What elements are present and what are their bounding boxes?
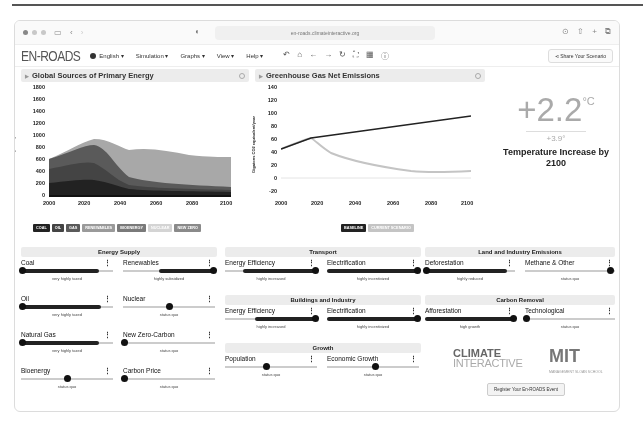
share-scenario-button[interactable]: ⋖ Share Your Scenario (548, 49, 613, 63)
share-icon[interactable]: ⇧ (577, 27, 584, 37)
step-forward-icon[interactable]: → (324, 50, 332, 61)
legend-gas[interactable]: GAS (66, 224, 80, 232)
menu-view[interactable]: View ▾ (217, 52, 235, 59)
slider-handle[interactable] (210, 267, 217, 274)
slider-handle[interactable] (19, 303, 26, 310)
slider-handle[interactable] (64, 375, 71, 382)
menu-graphs[interactable]: Graphs ▾ (180, 52, 204, 59)
address-bar[interactable]: en-roads.climateinteractive.org (215, 26, 435, 40)
slider-handle[interactable] (510, 315, 517, 322)
more-options-icon[interactable]: ⋮ (410, 259, 417, 267)
menu-help[interactable]: Help ▾ (246, 52, 263, 59)
forward-icon[interactable]: › (81, 28, 84, 37)
slider-handle[interactable] (19, 339, 26, 346)
close-window-button[interactable] (23, 30, 28, 35)
reset-icon[interactable]: ↻ (339, 50, 346, 61)
legend-new-zero[interactable]: NEW ZERO (174, 224, 200, 232)
slider-handle[interactable] (414, 315, 421, 322)
undo-icon[interactable]: ↶ (283, 50, 290, 61)
menu-language[interactable]: English ▾ (90, 52, 123, 59)
more-options-icon[interactable]: ⋮ (206, 331, 213, 339)
fullscreen-icon[interactable]: ⛶ (353, 50, 359, 61)
legend-coal[interactable]: COAL (33, 224, 50, 232)
tabs-overview-icon[interactable]: ⧉ (605, 27, 611, 37)
slider-handle[interactable] (121, 339, 128, 346)
slider-technological[interactable]: Technological⋮ status quo (525, 307, 615, 337)
slider-afforestation[interactable]: Afforestation⋮ high growth (425, 307, 515, 337)
home-icon[interactable]: ⌂ (297, 50, 302, 61)
slider-handle[interactable] (414, 267, 421, 274)
step-back-icon[interactable]: ← (309, 50, 317, 61)
slider-buildings-electrification[interactable]: Electrification⋮ highly incentivized (327, 307, 419, 337)
graph-title-bar[interactable]: ▶ Global Sources of Primary Energy (21, 69, 249, 82)
table-icon[interactable]: ▦ (366, 50, 374, 61)
legend-bioenergy[interactable]: BIOENERGY (117, 224, 146, 232)
climate-interactive-logo[interactable]: CLIMATE INTERACTIVE (453, 348, 522, 368)
slider-handle[interactable] (312, 315, 319, 322)
more-options-icon[interactable]: ⋮ (506, 307, 513, 315)
info-icon[interactable]: ⓘ (381, 50, 389, 61)
slider-renewables[interactable]: Renewables⋮ highly subsidized (123, 259, 215, 289)
slider-handle[interactable] (166, 303, 173, 310)
slider-population[interactable]: Population⋮ status quo (225, 355, 317, 385)
slider-transport-electrification[interactable]: Electrification⋮ highly incentivized (327, 259, 419, 289)
mit-sloan-logo[interactable]: MIT MANAGEMENT SLOAN SCHOOL (549, 348, 603, 380)
y-tick: 1000 (27, 132, 45, 138)
register-event-button[interactable]: Register Your En-ROADS Event (487, 383, 565, 396)
slider-handle[interactable] (121, 375, 128, 382)
more-options-icon[interactable]: ⋮ (104, 367, 111, 375)
minimize-window-button[interactable] (32, 30, 37, 35)
slider-transport-efficiency[interactable]: Energy Efficiency⋮ highly increased (225, 259, 317, 289)
more-options-icon[interactable]: ⋮ (606, 307, 613, 315)
more-options-icon[interactable]: ⋮ (206, 367, 213, 375)
slider-carbon-price[interactable]: Carbon Price⋮ status quo (123, 367, 215, 397)
slider-economic-growth[interactable]: Economic Growth⋮ status quo (327, 355, 419, 385)
graph-title: Greenhouse Gas Net Emissions (266, 71, 380, 80)
slider-handle[interactable] (607, 267, 614, 274)
slider-handle[interactable] (19, 267, 26, 274)
legend-current-scenario[interactable]: CURRENT SCENARIO (368, 224, 414, 232)
more-options-icon[interactable]: ⋮ (206, 295, 213, 303)
slider-handle[interactable] (523, 315, 530, 322)
more-options-icon[interactable]: ⋮ (104, 331, 111, 339)
slider-handle[interactable] (423, 267, 430, 274)
slider-new-zero-carbon[interactable]: New Zero-Carbon⋮ status quo (123, 331, 215, 361)
more-options-icon[interactable]: ⋮ (308, 259, 315, 267)
maximize-window-button[interactable] (41, 30, 46, 35)
graph-settings-icon[interactable] (475, 73, 481, 79)
more-options-icon[interactable]: ⋮ (410, 307, 417, 315)
slider-handle[interactable] (372, 363, 379, 370)
more-options-icon[interactable]: ⋮ (606, 259, 613, 267)
slider-natural-gas[interactable]: Natural Gas⋮ very highly taxed (21, 331, 113, 361)
y-tick: 20 (259, 162, 277, 168)
slider-handle[interactable] (312, 267, 319, 274)
more-options-icon[interactable]: ⋮ (104, 259, 111, 267)
temperature-value: +2.2°C (501, 91, 611, 129)
new-tab-icon[interactable]: + (592, 27, 597, 37)
more-options-icon[interactable]: ⋮ (506, 259, 513, 267)
more-options-icon[interactable]: ⋮ (410, 355, 417, 363)
slider-coal[interactable]: Coal⋮ very highly taxed (21, 259, 113, 289)
menu-simulation[interactable]: Simulation ▾ (136, 52, 169, 59)
more-options-icon[interactable]: ⋮ (308, 355, 315, 363)
graph-title-bar[interactable]: ▶ Greenhouse Gas Net Emissions (255, 69, 485, 82)
legend-nuclear[interactable]: NUCLEAR (148, 224, 173, 232)
legend-baseline[interactable]: BASELINE (341, 224, 366, 232)
sidebar-icon[interactable]: ▭ (54, 28, 62, 37)
slider-nuclear[interactable]: Nuclear⋮ status quo (123, 295, 215, 325)
more-options-icon[interactable]: ⋮ (206, 259, 213, 267)
back-icon[interactable]: ‹ (70, 28, 73, 37)
more-options-icon[interactable]: ⋮ (308, 307, 315, 315)
slider-buildings-efficiency[interactable]: Energy Efficiency⋮ highly increased (225, 307, 317, 337)
slider-deforestation[interactable]: Deforestation⋮ highly reduced (425, 259, 515, 289)
privacy-shield-icon[interactable]: ◐ (195, 27, 200, 36)
legend-renewables[interactable]: RENEWABLES (82, 224, 115, 232)
slider-bioenergy[interactable]: Bioenergy⋮ status quo (21, 367, 113, 397)
legend-oil[interactable]: OIL (52, 224, 64, 232)
slider-oil[interactable]: Oil⋮ very highly taxed (21, 295, 113, 325)
slider-handle[interactable] (263, 363, 270, 370)
more-options-icon[interactable]: ⋮ (104, 295, 111, 303)
slider-methane-other[interactable]: Methane & Other⋮ status quo (525, 259, 615, 289)
graph-settings-icon[interactable] (239, 73, 245, 79)
download-icon[interactable]: ⊙ (562, 27, 569, 37)
